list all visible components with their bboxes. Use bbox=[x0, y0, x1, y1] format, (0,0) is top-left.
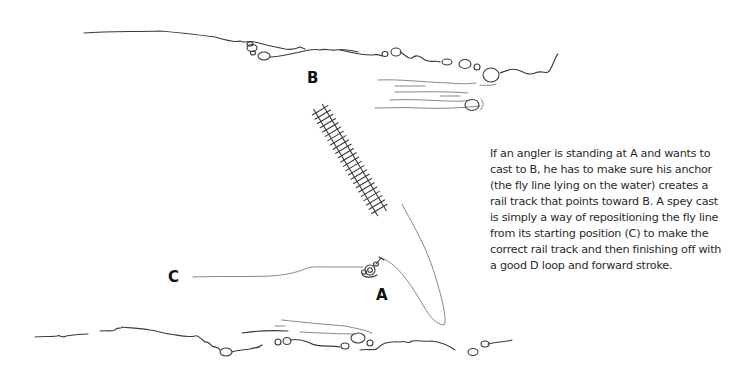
angler-figure bbox=[362, 257, 385, 277]
far-bank-shoreline bbox=[84, 31, 558, 82]
label-a: A bbox=[376, 288, 388, 303]
rail-track bbox=[310, 102, 389, 218]
fly-line-anchor bbox=[381, 204, 445, 325]
label-b: B bbox=[307, 71, 318, 86]
explanation-caption: If an angler is standing at A and wants … bbox=[490, 146, 722, 274]
fly-line-start-position bbox=[193, 267, 363, 277]
water-ripples-far bbox=[375, 80, 496, 111]
diagram-canvas: B C A If an angler is standing at A and … bbox=[0, 0, 735, 382]
near-bank-shoreline bbox=[35, 320, 512, 356]
label-c: C bbox=[168, 270, 179, 285]
